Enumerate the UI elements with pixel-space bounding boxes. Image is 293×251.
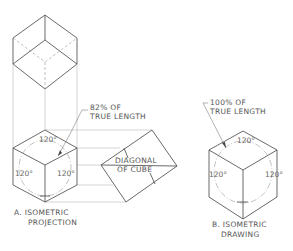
caption-b-line1: B. ISOMETRIC	[212, 220, 267, 229]
caption-a-line1: A. ISOMETRIC	[14, 208, 69, 217]
callout-82-line2: TRUE LENGTH	[89, 112, 146, 121]
angle-b-right: 120°	[265, 170, 283, 179]
callout-82-line1: 82% OF	[90, 103, 121, 112]
top-cube	[13, 15, 77, 89]
angle-a-top: 120°	[39, 135, 57, 144]
diagonal-label-line1: DIAGONAL	[115, 156, 158, 165]
callout-100-line2: TRUE LENGTH	[209, 107, 266, 116]
angle-b-left: 120°	[209, 170, 227, 179]
caption-a-line2: PROJECTION	[28, 218, 77, 227]
angle-b-top: 120°	[237, 136, 255, 145]
isometric-figure: 82% OF TRUE LENGTH 100% OF TRUE LENGTH D…	[0, 0, 293, 251]
caption-b-line2: DRAWING	[221, 230, 260, 239]
angle-a-left: 120°	[15, 169, 33, 178]
callout-100-line1: 100% OF	[210, 98, 246, 107]
callout-leader-82	[58, 110, 88, 156]
diagonal-label-line2: OF CUBE	[117, 165, 152, 174]
angle-a-right: 120°	[57, 169, 75, 178]
